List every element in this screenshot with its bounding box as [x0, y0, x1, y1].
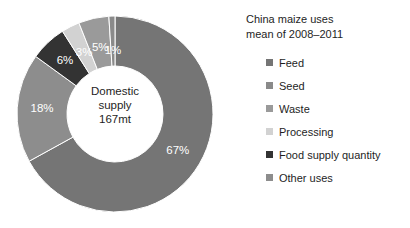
donut-chart-svg: 67%18%6%3%5%1%: [0, 0, 232, 228]
donut-slice-value-label: 1%: [105, 44, 122, 56]
chart-legend: China maize uses mean of 2008–2011 FeedS…: [243, 0, 410, 228]
legend-swatch-icon: [266, 174, 273, 181]
donut-slice-value-label: 18%: [31, 102, 54, 114]
donut-chart-plot-area: 67%18%6%3%5%1% Domestic supply 167mt: [0, 0, 232, 228]
legend-swatch-icon: [266, 105, 273, 112]
legend-item[interactable]: Feed: [266, 51, 410, 74]
legend-item[interactable]: Food supply quantity: [266, 143, 410, 166]
chart-title-block: China maize uses mean of 2008–2011: [246, 12, 343, 41]
legend-item-label: Seed: [279, 80, 305, 92]
legend-swatch-icon: [266, 82, 273, 89]
chart-title: China maize uses: [246, 12, 343, 27]
donut-slice-value-label: 67%: [166, 144, 189, 156]
donut-slice-value-label: 3%: [76, 46, 93, 58]
legend-item-label: Food supply quantity: [279, 149, 381, 161]
donut-slice-value-label: 6%: [57, 54, 74, 66]
chart-legend-items: FeedSeedWasteProcessingFood supply quant…: [266, 51, 410, 189]
donut-chart-figure: 67%18%6%3%5%1% Domestic supply 167mt Chi…: [0, 0, 410, 228]
legend-item[interactable]: Processing: [266, 120, 410, 143]
legend-item-label: Waste: [279, 103, 310, 115]
legend-item-label: Feed: [279, 57, 304, 69]
legend-item[interactable]: Seed: [266, 74, 410, 97]
chart-subtitle: mean of 2008–2011: [246, 27, 343, 42]
legend-item[interactable]: Waste: [266, 97, 410, 120]
legend-swatch-icon: [266, 151, 273, 158]
legend-swatch-icon: [266, 128, 273, 135]
legend-item[interactable]: Other uses: [266, 166, 410, 189]
legend-item-label: Processing: [279, 126, 333, 138]
legend-swatch-icon: [266, 59, 273, 66]
legend-item-label: Other uses: [279, 172, 333, 184]
